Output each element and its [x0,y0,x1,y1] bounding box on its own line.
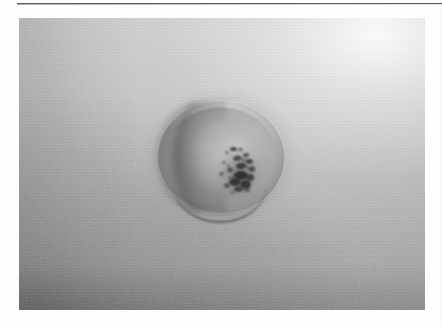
crust-fleck [244,188,250,192]
clinical-photograph [19,18,425,310]
crust-fleck [222,161,226,164]
crust-fleck [234,186,243,192]
crust-fleck [219,172,224,176]
crust-fleck [224,183,230,188]
crust-fleck [238,148,243,151]
central-crust [216,147,262,197]
skin-lesion [156,99,284,214]
crust-fleck [225,151,229,154]
figure-page [0,0,442,327]
header-rule-shadow [17,4,442,5]
crust-fleck [243,153,249,157]
crust-fleck [230,147,237,151]
crust-fleck [230,191,235,194]
